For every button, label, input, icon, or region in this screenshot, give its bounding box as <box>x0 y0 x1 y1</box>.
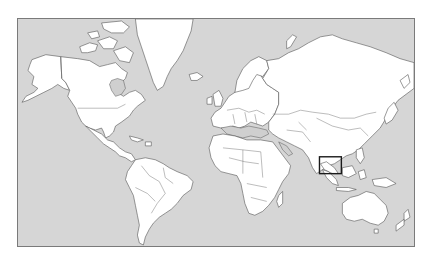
landmass-philippines <box>356 148 364 164</box>
landmass-iceland <box>189 73 203 81</box>
landmass-ireland <box>207 96 212 104</box>
landmass-borneo <box>342 166 356 178</box>
landmass-north-america <box>61 57 146 138</box>
landmass-great-britain <box>213 90 223 106</box>
landmass-novaya-zemlya <box>287 35 297 49</box>
landmass-new-zealand-north <box>404 209 410 221</box>
landmass-tasmania <box>374 229 378 233</box>
landmass-south-america <box>125 158 193 245</box>
landmass-arctic-island <box>80 43 98 53</box>
landmass-new-guinea <box>372 178 396 188</box>
landmass-java <box>336 188 356 192</box>
landmass-greenland <box>135 19 193 90</box>
landmass-ellesmere-island <box>102 21 130 33</box>
landmass-australia <box>342 191 388 225</box>
world-map <box>17 18 415 247</box>
landmass-new-zealand-south <box>396 219 404 231</box>
landmass-arctic-island <box>88 31 100 39</box>
landmass-madagascar <box>277 191 283 207</box>
landmass-hispaniola <box>145 142 151 146</box>
landmass-sulawesi <box>358 170 366 180</box>
landmass-cuba <box>129 136 143 142</box>
world-map-svg <box>18 19 414 246</box>
landmass-baffin-island <box>114 47 134 63</box>
landmass-arctic-island <box>98 37 118 49</box>
